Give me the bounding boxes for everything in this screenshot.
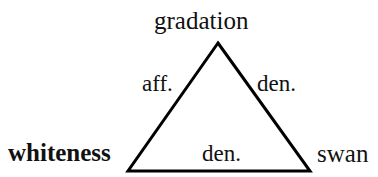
semantic-triangle-figure: gradation whiteness swan aff. den. den.: [0, 0, 378, 177]
edge-label-left-aff: aff.: [142, 72, 173, 95]
vertex-label-gradation: gradation: [154, 8, 248, 33]
edge-label-bottom-den: den.: [202, 142, 241, 165]
edge-label-right-den: den.: [257, 72, 296, 95]
vertex-label-swan: swan: [317, 141, 368, 166]
vertex-label-whiteness: whiteness: [8, 140, 111, 165]
